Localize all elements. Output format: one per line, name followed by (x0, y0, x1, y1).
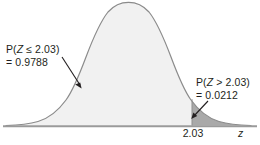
x-axis-label: z (238, 127, 243, 140)
tail-probability-prefix: P( (196, 76, 207, 88)
cumulative-probability-suffix: ≤ 2.03) (23, 43, 59, 55)
normal-distribution-figure (0, 0, 260, 145)
cumulative-probability-expression: P(Z ≤ 2.03) (6, 43, 60, 56)
cumulative-probability-value: = 0.9788 (6, 56, 60, 69)
cumulative-probability-label: P(Z ≤ 2.03) = 0.9788 (6, 43, 60, 69)
tail-probability-value: = 0.0212 (196, 89, 250, 102)
tail-probability-label: P(Z > 2.03) = 0.0212 (196, 76, 250, 102)
x-axis-tick-label-203: 2.03 (175, 127, 211, 140)
cumulative-probability-prefix: P( (6, 43, 17, 55)
tail-probability-suffix: > 2.03) (213, 76, 250, 88)
tail-probability-expression: P(Z > 2.03) (196, 76, 250, 89)
